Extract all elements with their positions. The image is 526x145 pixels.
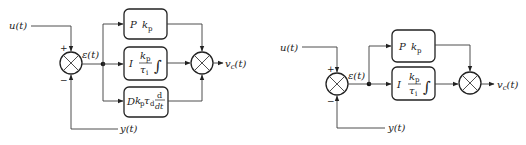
svg-text:dt: dt [155, 102, 164, 111]
summing-junction-left [326, 73, 348, 95]
summing-junction-right [459, 72, 481, 94]
output-label: vc(t) [225, 58, 246, 71]
svg-text:d: d [157, 91, 162, 100]
integral-icon: ∫ [423, 78, 431, 96]
block-d: D k p τ d d dt [124, 87, 168, 117]
branch-d [103, 64, 123, 101]
svg-text:p: p [146, 55, 151, 63]
svg-text:P: P [398, 41, 406, 52]
integral-icon: ∫ [154, 57, 162, 75]
svg-text:D: D [126, 96, 135, 107]
feedback-line [71, 75, 118, 129]
svg-text:p: p [148, 25, 153, 33]
plus-sign: + [327, 64, 335, 74]
branch-p [103, 24, 123, 64]
summing-junction-right [191, 52, 213, 74]
minus-sign: − [60, 75, 68, 85]
feedback-label: y(t) [119, 123, 138, 134]
svg-text:p: p [417, 47, 422, 55]
pi-diagram: u(t) + − ε(t) P k p I k p τ i ∫ [280, 30, 518, 133]
branch-p [369, 46, 391, 84]
feedback-line [337, 96, 385, 128]
output-label: vc(t) [497, 79, 518, 92]
error-label: ε(t) [348, 70, 365, 81]
p-out-line [435, 45, 470, 71]
input-label: u(t) [280, 42, 298, 53]
pid-diagram: u(t) + − ε(t) P k p I k p [9, 9, 246, 134]
block-i: I k p τ i ∫ [124, 47, 167, 80]
minus-sign: − [327, 96, 335, 106]
d-out-line [168, 75, 202, 101]
summing-junction-left [60, 52, 82, 74]
error-label: ε(t) [82, 49, 99, 60]
block-p: P k p [124, 9, 167, 39]
p-out-line [167, 24, 202, 51]
pid-pi-block-diagrams: u(t) + − ε(t) P k p I k p [0, 0, 526, 145]
svg-text:p: p [415, 76, 420, 84]
feedback-label: y(t) [387, 122, 406, 133]
plus-sign: + [60, 43, 68, 53]
svg-text:P: P [129, 19, 137, 30]
block-i: I k p τ i ∫ [392, 67, 435, 100]
block-p: P k p [392, 30, 435, 62]
input-label: u(t) [9, 20, 27, 31]
